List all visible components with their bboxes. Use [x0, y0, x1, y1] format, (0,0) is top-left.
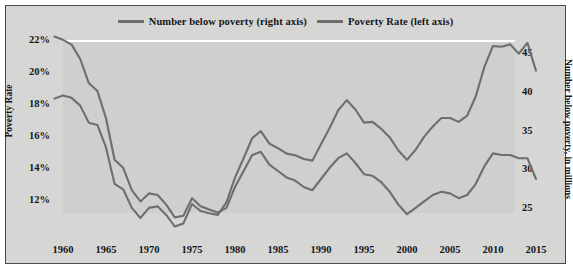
right-axis-tick: 25 [522, 202, 562, 213]
chart-frame: Number below poverty (right axis) Povert… [5, 5, 566, 264]
line-swatch-icon [118, 20, 144, 23]
x-axis-tick: 2000 [387, 244, 427, 255]
x-axis-tick: 1975 [172, 244, 212, 255]
left-axis-tick: 18% [10, 98, 50, 109]
x-axis-tick: 1985 [258, 244, 298, 255]
left-axis-tick: 22% [10, 34, 50, 45]
series-lines [63, 42, 515, 215]
right-axis-tick: 30 [522, 163, 562, 174]
left-axis-tick: 12% [10, 194, 50, 205]
chart-legend: Number below poverty (right axis) Povert… [6, 16, 565, 27]
legend-item-poverty-rate: Poverty Rate (left axis) [317, 16, 453, 27]
left-axis-tick: 16% [10, 130, 50, 141]
x-axis-tick: 1965 [86, 244, 126, 255]
line-swatch-icon [317, 20, 343, 23]
x-axis-tick: 1990 [301, 244, 341, 255]
legend-label: Number below poverty (right axis) [149, 16, 307, 27]
left-axis-tick: 20% [10, 66, 50, 77]
right-axis-tick: 45 [522, 47, 562, 58]
legend-label: Poverty Rate (left axis) [348, 16, 453, 27]
right-axis-title: Number below poverty, in millions [563, 59, 573, 199]
x-axis-tick: 2010 [473, 244, 513, 255]
x-axis-tick: 2015 [516, 244, 556, 255]
x-axis-tick: 1980 [215, 244, 255, 255]
x-axis-tick: 1970 [129, 244, 169, 255]
line-poverty-rate [54, 37, 536, 218]
right-axis-tick: 35 [522, 125, 562, 136]
x-axis-tick: 1995 [344, 244, 384, 255]
legend-item-number-below-poverty: Number below poverty (right axis) [118, 16, 307, 27]
x-axis-tick: 1960 [43, 244, 83, 255]
line-number-below-poverty [54, 43, 536, 227]
left-axis-tick: 14% [10, 162, 50, 173]
plot-area [63, 40, 515, 213]
right-axis-tick: 40 [522, 86, 562, 97]
x-axis-tick: 2005 [430, 244, 470, 255]
